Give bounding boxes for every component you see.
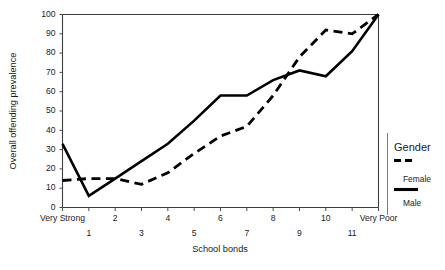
- y-tick-label: 0: [51, 202, 56, 212]
- x-tick-label: Very Poor: [360, 213, 398, 223]
- y-tick-label: 90: [46, 28, 56, 38]
- y-tick-label: 60: [46, 86, 56, 96]
- x-tick-label: 7: [244, 228, 249, 238]
- y-axis-tick-labels: 0102030405060708090100: [41, 9, 56, 212]
- y-tick-label: 80: [46, 47, 56, 57]
- y-tick-label: 20: [46, 163, 56, 173]
- x-tick-label: Very Strong: [40, 213, 85, 223]
- series-line-female: [63, 15, 379, 185]
- x-tick-label: 6: [218, 213, 223, 223]
- legend: Gender Female Male: [388, 133, 432, 215]
- x-tick-label: 2: [113, 213, 118, 223]
- x-axis-tick-labels: Very Strong1234567891011Very Poor: [40, 213, 397, 238]
- x-tick-label: 4: [165, 213, 170, 223]
- series-line-male: [63, 15, 379, 196]
- y-tick-label: 40: [46, 125, 56, 135]
- chart-figure: 0102030405060708090100 Very Strong123456…: [0, 0, 445, 270]
- y-tick-label: 50: [46, 105, 56, 115]
- y-axis-title: Overall offending prevalence: [8, 53, 18, 170]
- x-tick-label: 1: [86, 228, 91, 238]
- line-chart: 0102030405060708090100 Very Strong123456…: [0, 0, 445, 270]
- legend-title: Gender: [394, 141, 431, 153]
- x-tick-label: 3: [139, 228, 144, 238]
- legend-label-female: Female: [403, 174, 431, 184]
- data-series-group: [63, 15, 379, 196]
- x-axis-title: School bonds: [192, 244, 248, 254]
- legend-label-male: Male: [403, 198, 421, 208]
- x-tick-label: 8: [271, 213, 276, 223]
- x-tick-label: 5: [192, 228, 197, 238]
- y-tick-label: 70: [46, 67, 56, 77]
- y-tick-label: 100: [41, 9, 56, 19]
- x-tick-label: 10: [321, 213, 331, 223]
- y-tick-label: 10: [46, 182, 56, 192]
- y-tick-label: 30: [46, 144, 56, 154]
- x-tick-label: 11: [348, 228, 357, 238]
- x-tick-label: 9: [297, 228, 302, 238]
